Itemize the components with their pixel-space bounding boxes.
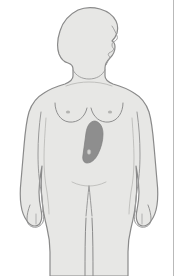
- right-border-rule: [173, 0, 174, 276]
- nipple-right-marker: [66, 111, 70, 114]
- body-silhouette-svg: Highlighted organ region, upper left abd…: [0, 0, 178, 276]
- region-navel: [87, 150, 91, 155]
- nipple-left-marker: [108, 111, 112, 114]
- body-diagram-figure: Female body anterior silhouette with hig…: [0, 0, 178, 276]
